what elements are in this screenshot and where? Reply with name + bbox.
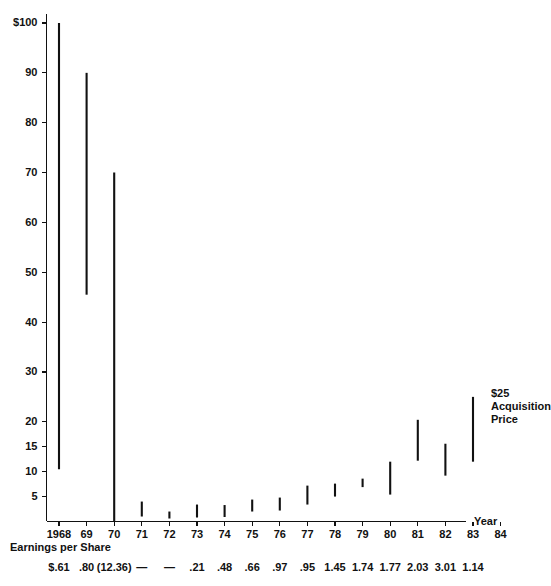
y-tick-label-90: 90 (25, 66, 37, 78)
price-range-bars (59, 23, 473, 522)
x-tick-label-81: 81 (412, 528, 424, 540)
x-tick-label-78: 78 (329, 528, 341, 540)
y-tick-label-5: 5 (31, 490, 37, 502)
y-tick-label-30: 30 (25, 365, 37, 377)
x-tick-label-77: 77 (301, 528, 313, 540)
x-tick-label-80: 80 (384, 528, 396, 540)
eps-value-82: 3.01 (435, 561, 456, 573)
eps-value-75: .66 (245, 561, 260, 573)
y-tick-label-20: 20 (25, 415, 37, 427)
x-tick-label-84: 84 (494, 528, 507, 540)
eps-section: Earnings per Share $.61.80(12.36)——.21.4… (10, 541, 485, 573)
eps-value-83: 1.14 (462, 561, 484, 573)
x-tick-label-69: 69 (80, 528, 92, 540)
eps-value-80: 1.77 (379, 561, 400, 573)
y-tick-label-80: 80 (25, 116, 37, 128)
eps-value-81: 2.03 (407, 561, 428, 573)
x-tick-label-83: 83 (467, 528, 479, 540)
chart-canvas: $100908070605040302015105 19686970717273… (0, 0, 551, 586)
y-tick-label-10: 10 (25, 465, 37, 477)
eps-title: Earnings per Share (10, 541, 111, 553)
x-axis-group: 196869707172737475767778798081828384 Yea… (47, 515, 508, 540)
x-tick-label-72: 72 (163, 528, 175, 540)
eps-value-78: 1.45 (324, 561, 345, 573)
y-tick-label-70: 70 (25, 166, 37, 178)
eps-value-1968: $.61 (48, 561, 69, 573)
x-tick-label-82: 82 (439, 528, 451, 540)
x-axis-tick-labels: 196869707172737475767778798081828384 (47, 528, 508, 540)
y-axis-group: $100908070605040302015105 (13, 14, 46, 521)
annotation-acquisition-line-3: Price (491, 413, 518, 425)
x-tick-label-75: 75 (246, 528, 258, 540)
eps-value-77: .95 (300, 561, 315, 573)
x-tick-label-1968: 1968 (47, 528, 71, 540)
x-tick-label-79: 79 (356, 528, 368, 540)
y-tick-label-50: 50 (25, 266, 37, 278)
x-axis-ticks (59, 522, 501, 526)
chart-annotations: $25AcquisitionPrice (491, 387, 551, 425)
eps-value-76: .97 (272, 561, 287, 573)
y-tick-label-100: $100 (13, 16, 37, 28)
y-axis-tick-labels: $100908070605040302015105 (13, 16, 37, 502)
eps-value-70: (12.36) (97, 561, 132, 573)
x-tick-label-70: 70 (108, 528, 120, 540)
annotation-acquisition-line-1: $25 (491, 387, 509, 399)
x-axis-label: Year (474, 515, 498, 527)
eps-values: $.61.80(12.36)——.21.48.66.97.951.451.741… (48, 561, 484, 573)
eps-value-74: .48 (217, 561, 232, 573)
eps-value-69: .80 (79, 561, 94, 573)
y-tick-label-60: 60 (25, 216, 37, 228)
y-axis-ticks (42, 23, 47, 497)
eps-value-72: — (164, 561, 175, 573)
eps-value-71: — (136, 561, 147, 573)
x-tick-label-73: 73 (191, 528, 203, 540)
eps-value-73: .21 (189, 561, 204, 573)
annotation-acquisition-line-2: Acquisition (491, 400, 551, 412)
x-tick-label-74: 74 (218, 528, 231, 540)
y-tick-label-15: 15 (25, 440, 37, 452)
x-tick-label-71: 71 (136, 528, 148, 540)
price-range-chart: $100908070605040302015105 19686970717273… (0, 0, 551, 586)
x-tick-label-76: 76 (274, 528, 286, 540)
eps-value-79: 1.74 (352, 561, 374, 573)
y-tick-label-40: 40 (25, 316, 37, 328)
